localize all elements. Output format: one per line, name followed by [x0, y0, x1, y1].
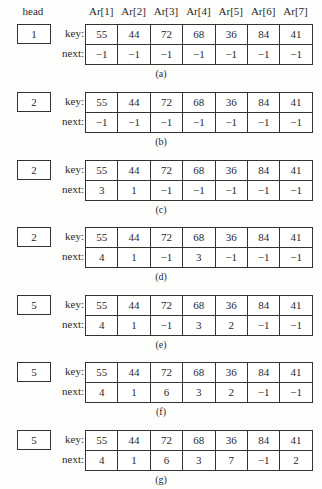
next-cell: −1 — [150, 248, 182, 268]
key-cell: 72 — [150, 228, 182, 248]
key-row: 55447268368441 — [86, 296, 313, 316]
next-cell: 4 — [86, 316, 118, 336]
next-cell: −1 — [183, 45, 215, 65]
key-row: 55447268368441 — [86, 93, 313, 113]
next-cell: 3 — [183, 316, 215, 336]
next-cell: −1 — [247, 113, 279, 133]
head-pointer-box: 5 — [17, 362, 51, 382]
next-row: −1−1−1−1−1−1−1 — [86, 113, 313, 133]
key-cell: 84 — [247, 363, 279, 383]
array-table: 55447268368441−1−1−1−1−1−1−1 — [85, 92, 313, 133]
key-cell: 72 — [150, 25, 182, 45]
next-row-label: next: — [52, 385, 84, 397]
column-header: Ar[6] — [247, 5, 279, 17]
next-cell: 6 — [150, 451, 182, 471]
key-cell: 84 — [247, 161, 279, 181]
column-header: Ar[4] — [182, 5, 214, 17]
next-row: 41−132−1−1 — [86, 316, 313, 336]
key-cell: 36 — [215, 25, 247, 45]
next-cell: 3 — [183, 248, 215, 268]
key-cell: 68 — [183, 296, 215, 316]
next-row: 41637−12 — [86, 451, 313, 471]
next-cell: −1 — [247, 451, 279, 471]
key-cell: 36 — [215, 431, 247, 451]
key-cell: 72 — [150, 296, 182, 316]
array-table: 5544726836844131−1−1−1−1−1 — [85, 160, 313, 201]
next-cell: −1 — [86, 113, 118, 133]
column-header: Ar[2] — [117, 5, 149, 17]
key-cell: 84 — [247, 431, 279, 451]
linked-list-panel: 5key:next:5544726836844141−132−1−1(e) — [0, 295, 322, 363]
key-cell: 55 — [86, 228, 118, 248]
next-cell: 3 — [183, 383, 215, 403]
next-cell: −1 — [280, 113, 312, 133]
panel-caption: (a) — [0, 68, 322, 79]
next-row-label: next: — [52, 318, 84, 330]
panel-caption: (e) — [0, 339, 322, 350]
next-cell: −1 — [247, 316, 279, 336]
column-header: Ar[7] — [279, 5, 311, 17]
array-table: 55447268368441−1−1−1−1−1−1−1 — [85, 24, 313, 65]
next-cell: −1 — [247, 45, 279, 65]
next-cell: −1 — [247, 248, 279, 268]
key-cell: 84 — [247, 93, 279, 113]
next-row: 41632−1−1 — [86, 383, 313, 403]
key-cell: 44 — [118, 296, 150, 316]
next-cell: 2 — [215, 383, 247, 403]
next-cell: −1 — [150, 181, 182, 201]
key-cell: 41 — [280, 93, 312, 113]
key-row: 55447268368441 — [86, 363, 313, 383]
next-cell: −1 — [183, 181, 215, 201]
next-row-label: next: — [52, 250, 84, 262]
next-cell: −1 — [118, 45, 150, 65]
key-cell: 36 — [215, 228, 247, 248]
key-cell: 55 — [86, 25, 118, 45]
key-cell: 55 — [86, 296, 118, 316]
array-table: 5544726836844141−13−1−1−1 — [85, 227, 313, 268]
key-row: 55447268368441 — [86, 431, 313, 451]
key-cell: 44 — [118, 228, 150, 248]
next-row: −1−1−1−1−1−1−1 — [86, 45, 313, 65]
key-row-label: key: — [52, 27, 84, 39]
head-pointer-box: 2 — [17, 227, 51, 247]
key-cell: 72 — [150, 161, 182, 181]
linked-list-panel: 2key:next:55447268368441−1−1−1−1−1−1−1(b… — [0, 92, 322, 160]
next-cell: −1 — [150, 45, 182, 65]
key-cell: 84 — [247, 296, 279, 316]
next-row: 41−13−1−1−1 — [86, 248, 313, 268]
key-cell: 44 — [118, 161, 150, 181]
next-cell: 6 — [150, 383, 182, 403]
next-cell: −1 — [86, 45, 118, 65]
key-cell: 41 — [280, 25, 312, 45]
key-cell: 44 — [118, 93, 150, 113]
next-cell: 3 — [86, 181, 118, 201]
key-cell: 36 — [215, 363, 247, 383]
next-row-label: next: — [52, 453, 84, 465]
column-header: Ar[1] — [85, 5, 117, 17]
key-row: 55447268368441 — [86, 25, 313, 45]
next-cell: 1 — [118, 316, 150, 336]
next-cell: 2 — [280, 451, 312, 471]
key-cell: 41 — [280, 431, 312, 451]
panel-caption: (f) — [0, 406, 322, 417]
key-cell: 68 — [183, 228, 215, 248]
key-cell: 44 — [118, 431, 150, 451]
next-cell: 7 — [215, 451, 247, 471]
key-row: 55447268368441 — [86, 161, 313, 181]
key-cell: 41 — [280, 363, 312, 383]
panel-caption: (b) — [0, 136, 322, 147]
key-row-label: key: — [52, 95, 84, 107]
key-row-label: key: — [52, 365, 84, 377]
next-cell: 4 — [86, 383, 118, 403]
key-row-label: key: — [52, 298, 84, 310]
next-cell: −1 — [150, 113, 182, 133]
next-cell: 3 — [183, 451, 215, 471]
head-pointer-box: 5 — [17, 295, 51, 315]
next-cell: 4 — [86, 451, 118, 471]
key-cell: 68 — [183, 93, 215, 113]
next-cell: −1 — [150, 316, 182, 336]
head-pointer-box: 2 — [17, 160, 51, 180]
key-cell: 68 — [183, 431, 215, 451]
key-cell: 55 — [86, 161, 118, 181]
key-cell: 68 — [183, 25, 215, 45]
